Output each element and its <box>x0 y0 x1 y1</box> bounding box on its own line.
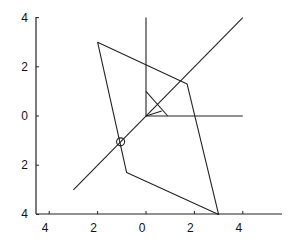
x-tick-label: 2 <box>90 221 97 235</box>
y-tick-label: 2 <box>21 158 28 172</box>
x-ticks: 42024 <box>42 211 243 235</box>
x-tick-label: 4 <box>42 221 49 235</box>
quadrilateral <box>98 42 219 214</box>
x-tick-label: 0 <box>139 221 146 235</box>
diagram-canvas: 42024 42024 <box>0 0 297 244</box>
y-tick-label: 4 <box>21 11 28 25</box>
geometry <box>73 18 242 215</box>
y-tick-label: 4 <box>21 207 28 221</box>
diagonal-line <box>73 18 242 190</box>
y-tick-label: 0 <box>21 109 28 123</box>
x-tick-label: 2 <box>187 221 194 235</box>
x-tick-label: 4 <box>235 221 242 235</box>
y-tick-label: 2 <box>21 60 28 74</box>
